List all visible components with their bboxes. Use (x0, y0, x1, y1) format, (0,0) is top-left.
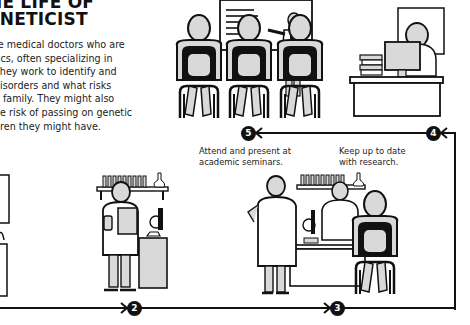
page-title: HE LIFE OF ENETICIST (0, 0, 94, 28)
step-badge-2: 2 (127, 301, 142, 316)
intro-line: dren they might have. (0, 120, 184, 134)
intro-line: They work to identify and (0, 65, 184, 79)
desk-scene (350, 8, 444, 116)
seminar-scene (177, 0, 323, 118)
step-badge-3: 3 (330, 301, 345, 316)
intro-line: a family. They might also (0, 92, 184, 106)
step-badge-4: 4 (426, 126, 441, 141)
step-badge-5: 5 (241, 126, 256, 141)
step-5-caption: Attend and present at academic seminars. (199, 146, 291, 168)
lab-scientist-scene (97, 173, 168, 290)
caption-line: with research. (339, 157, 406, 168)
lab-consultation-scene (248, 173, 397, 294)
intro-line: he risk of passing on genetic (0, 106, 184, 120)
intro-line: tics, often specializing in (0, 52, 184, 66)
intro-paragraph: re medical doctors who are tics, often s… (0, 38, 184, 133)
intro-line: re medical doctors who are (0, 38, 184, 52)
caption-line: academic seminars. (199, 157, 291, 168)
caption-line: Keep up to date (339, 146, 406, 157)
left-partial-scene (0, 175, 9, 296)
intro-line: disorders and what risks (0, 79, 184, 93)
title-line-2: ENETICIST (0, 11, 94, 28)
caption-line: Attend and present at (199, 146, 291, 157)
step-4-caption: Keep up to date with research. (339, 146, 406, 168)
